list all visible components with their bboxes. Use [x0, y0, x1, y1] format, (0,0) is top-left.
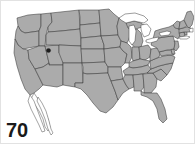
state-new-jersey: [174, 41, 179, 51]
state-kansas: [81, 49, 105, 63]
state-nebraska: [81, 36, 104, 49]
state-montana: [48, 10, 80, 32]
state-south-dakota: [80, 23, 101, 38]
state-florida: [141, 91, 167, 123]
lake-huron: [141, 24, 151, 37]
corner-number-label: 70: [6, 120, 28, 140]
state-ohio: [139, 45, 151, 60]
state-arkansas: [108, 67, 123, 81]
point-marker-utah: [46, 48, 50, 52]
state-alabama: [133, 74, 144, 91]
state-north-dakota: [79, 10, 100, 25]
map-markers: [46, 48, 50, 52]
state-wyoming: [46, 29, 81, 46]
us-states-map: [1, 1, 194, 143]
state-iowa: [101, 35, 121, 49]
map-figure: 70: [0, 0, 195, 144]
state-oklahoma: [82, 62, 108, 74]
cape-cod-outline: [189, 28, 193, 32]
state-minnesota: [99, 9, 119, 36]
state-indiana: [132, 47, 140, 61]
state-colorado: [59, 45, 82, 63]
